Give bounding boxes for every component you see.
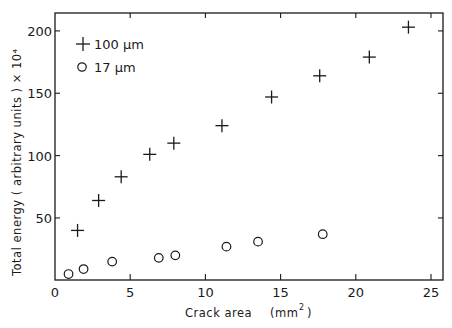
plus-marker (143, 148, 156, 161)
scatter-chart: 0510152025 50100150200 100 µm 17 µm Tota… (0, 0, 452, 328)
plus-marker (402, 21, 415, 34)
plus-marker (167, 137, 180, 150)
x-tick-label: 25 (423, 285, 440, 300)
plus-marker (115, 170, 128, 183)
circle-marker (222, 242, 231, 251)
plus-marker (92, 194, 105, 207)
x-tick-label: 5 (126, 285, 134, 300)
circle-marker (318, 230, 327, 239)
x-tick-label: 20 (348, 285, 365, 300)
plus-marker (71, 224, 84, 237)
x-tick-label: 15 (272, 285, 289, 300)
plus-marker (215, 119, 228, 132)
x-axis-title-unit: (mm (270, 306, 298, 320)
legend-label-100um: 100 µm (94, 37, 144, 52)
x-axis-title-main: Crack area (185, 306, 252, 320)
plus-marker (363, 51, 376, 64)
plus-marker (313, 69, 326, 82)
plot-frame (55, 13, 443, 280)
circle-marker (79, 265, 88, 274)
x-axis-title-superscript: 2 (299, 303, 305, 312)
plus-marker (265, 90, 278, 103)
legend-label-17um: 17 µm (94, 60, 136, 75)
legend-plus-marker-icon (76, 37, 90, 51)
circle-marker (254, 237, 263, 246)
x-axis-title: Crack area (mm 2 ) (185, 303, 312, 320)
y-axis-title: Total energy ( arbitrary units ) × 10⁴ (10, 48, 24, 277)
y-tick-label: 50 (35, 211, 52, 226)
circle-marker (154, 254, 163, 263)
y-tick-label: 200 (27, 24, 52, 39)
y-axis-ticks: 50100150200 (27, 24, 443, 226)
x-tick-label: 10 (197, 285, 214, 300)
legend-circle-marker-icon (78, 63, 86, 71)
legend: 100 µm 17 µm (76, 37, 144, 75)
x-axis-ticks: 0510152025 (51, 13, 439, 300)
y-tick-label: 100 (27, 149, 52, 164)
circle-marker (108, 257, 117, 266)
circle-marker (171, 251, 180, 260)
circle-marker (64, 270, 73, 279)
x-axis-title-close: ) (307, 306, 312, 320)
y-tick-label: 150 (27, 86, 52, 101)
x-tick-label: 0 (51, 285, 59, 300)
